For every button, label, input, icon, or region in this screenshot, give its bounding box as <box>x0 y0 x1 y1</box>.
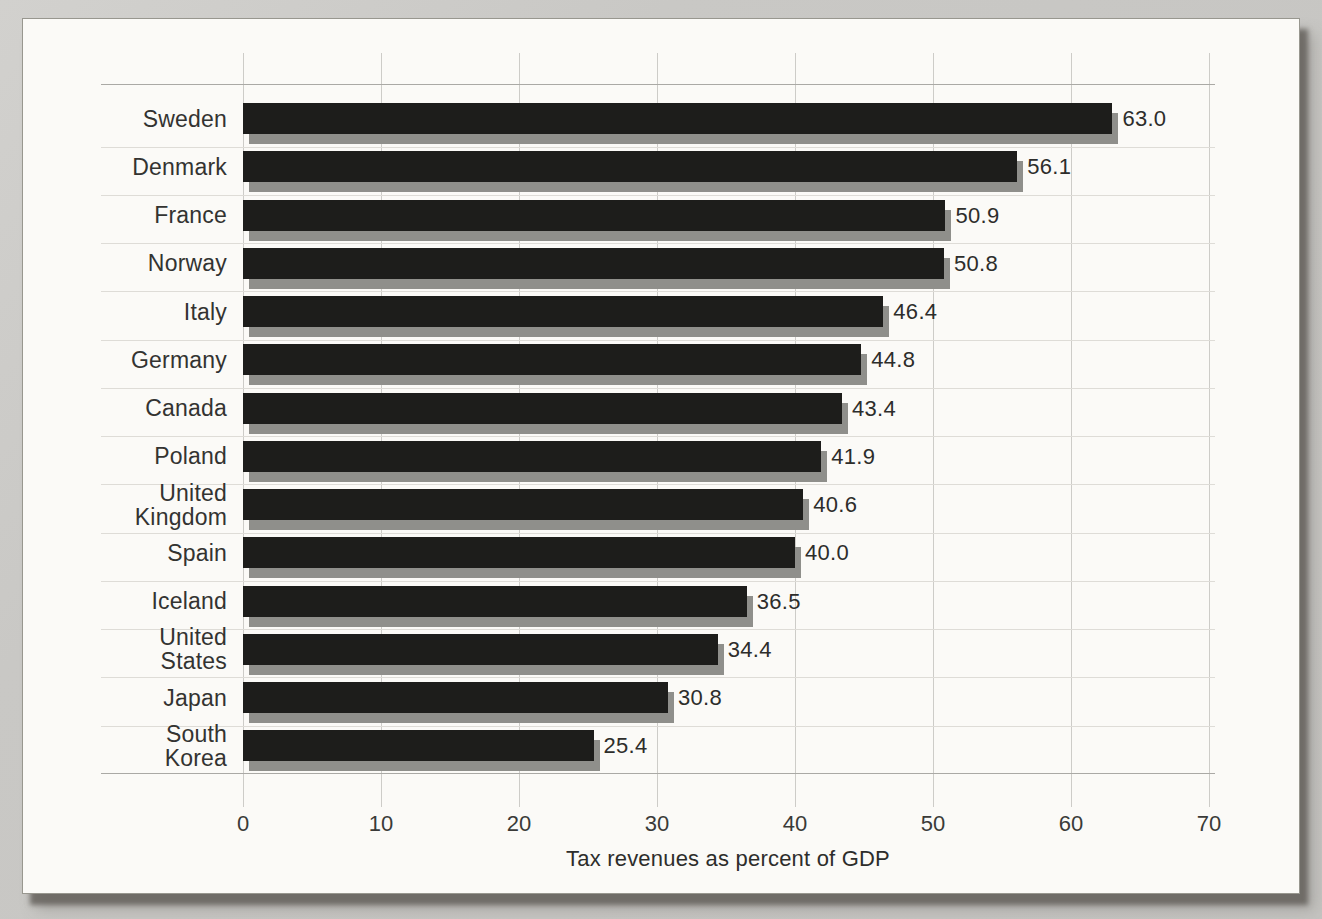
row-separator <box>101 677 1215 678</box>
row-separator <box>101 726 1215 727</box>
bar <box>243 441 821 472</box>
value-label: 34.4 <box>728 634 772 665</box>
x-gridline <box>1209 53 1210 807</box>
bar-chart: 010203040506070Sweden63.0Denmark56.1Fran… <box>23 19 1299 893</box>
value-label: 25.4 <box>604 730 648 761</box>
category-label: United States <box>23 625 227 674</box>
bar <box>243 296 883 327</box>
value-label: 40.0 <box>805 537 849 568</box>
x-tick-label: 30 <box>617 811 697 837</box>
row-separator <box>101 436 1215 437</box>
row-separator <box>101 243 1215 244</box>
x-tick-label: 20 <box>479 811 559 837</box>
bar <box>243 200 945 231</box>
row-separator <box>101 388 1215 389</box>
category-label: United Kingdom <box>23 480 227 529</box>
category-label: Iceland <box>23 577 227 626</box>
bar <box>243 537 795 568</box>
bar <box>243 393 842 424</box>
row-separator <box>101 147 1215 148</box>
bar <box>243 586 747 617</box>
x-axis-title: Tax revenues as percent of GDP <box>428 845 1028 873</box>
value-label: 43.4 <box>852 393 896 424</box>
bar <box>243 151 1017 182</box>
category-label: Germany <box>23 335 227 384</box>
row-separator <box>101 533 1215 534</box>
category-label: Poland <box>23 432 227 481</box>
value-label: 40.6 <box>813 489 857 520</box>
row-separator <box>101 195 1215 196</box>
bar <box>243 344 861 375</box>
bar <box>243 103 1112 134</box>
category-label: South Korea <box>23 721 227 770</box>
row-separator <box>101 340 1215 341</box>
category-label: Spain <box>23 528 227 577</box>
category-label: Norway <box>23 239 227 288</box>
bar <box>243 682 668 713</box>
category-label: France <box>23 191 227 240</box>
value-label: 56.1 <box>1027 151 1071 182</box>
bar <box>243 248 944 279</box>
category-label: Sweden <box>23 94 227 143</box>
x-tick-label: 10 <box>341 811 421 837</box>
category-label: Denmark <box>23 142 227 191</box>
bar <box>243 730 594 761</box>
bar <box>243 634 718 665</box>
value-label: 50.9 <box>955 200 999 231</box>
x-tick-label: 50 <box>893 811 973 837</box>
category-label: Canada <box>23 384 227 433</box>
value-label: 50.8 <box>954 248 998 279</box>
row-separator <box>101 581 1215 582</box>
category-label: Italy <box>23 287 227 336</box>
x-tick-label: 0 <box>203 811 283 837</box>
x-tick-label: 60 <box>1031 811 1111 837</box>
bar <box>243 489 803 520</box>
x-tick-label: 40 <box>755 811 835 837</box>
value-label: 30.8 <box>678 682 722 713</box>
category-label: Japan <box>23 673 227 722</box>
x-axis-line <box>101 773 1215 774</box>
row-separator <box>101 629 1215 630</box>
value-label: 44.8 <box>871 344 915 375</box>
value-label: 63.0 <box>1122 103 1166 134</box>
row-separator <box>101 291 1215 292</box>
value-label: 41.9 <box>831 441 875 472</box>
x-tick-label: 70 <box>1169 811 1249 837</box>
row-separator <box>101 484 1215 485</box>
value-label: 36.5 <box>757 586 801 617</box>
plot-top-line <box>101 84 1215 85</box>
value-label: 46.4 <box>893 296 937 327</box>
scanned-page: { "figure": { "page_background_color": "… <box>0 0 1322 919</box>
figure-panel: 010203040506070Sweden63.0Denmark56.1Fran… <box>22 18 1300 894</box>
